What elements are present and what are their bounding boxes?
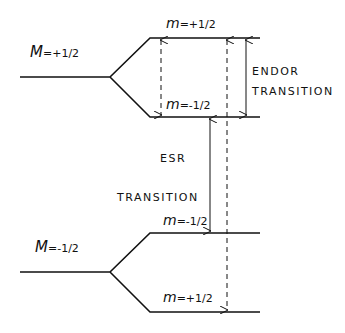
endor-label-1: ENDOR: [252, 65, 299, 78]
lower-m-plus-label: m=+1/2: [163, 289, 213, 305]
esr-label-1: ESR: [160, 152, 186, 165]
lower-m-minus-label: m=-1/2: [163, 212, 208, 228]
upper-M-label: M=+1/2: [30, 43, 79, 61]
upper-m-plus-label: m=+1/2: [166, 15, 216, 31]
esr-label-2: TRANSITION: [117, 191, 199, 204]
endor-label-2: TRANSITION: [252, 85, 334, 98]
lower-M-label: M=-1/2: [35, 238, 79, 256]
upper-m-minus-label: m=-1/2: [166, 96, 211, 112]
